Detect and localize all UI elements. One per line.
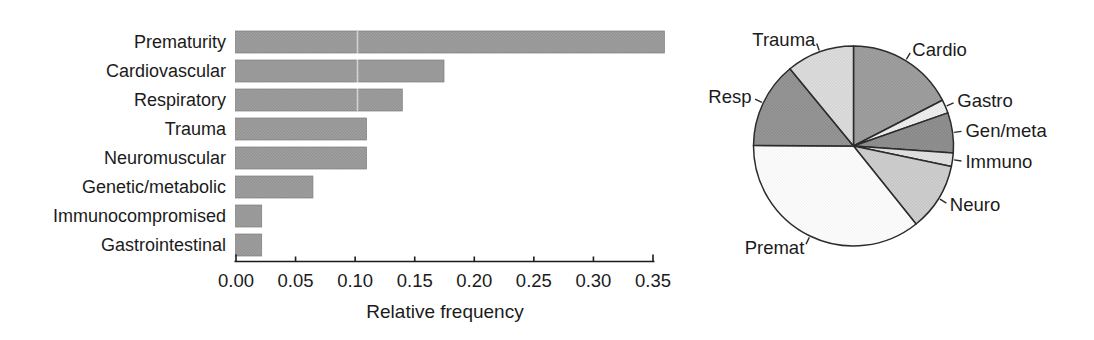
bar-label-genetic-metabolic: Genetic/metabolic bbox=[82, 177, 226, 197]
x-tick-label: 0.30 bbox=[575, 270, 611, 291]
bar-label-immunocompromised: Immunocompromised bbox=[53, 206, 226, 226]
x-tick-label: 0.10 bbox=[337, 270, 373, 291]
x-axis: 0.000.050.100.150.200.250.300.35Relative… bbox=[218, 255, 671, 322]
bar-label-trauma: Trauma bbox=[165, 119, 227, 139]
x-tick-label: 0.25 bbox=[516, 270, 552, 291]
bar-cardiovascular bbox=[236, 60, 445, 82]
x-tick-label: 0.15 bbox=[397, 270, 433, 291]
pie-label-gastro: Gastro bbox=[957, 90, 1013, 111]
pie-label-trauma: Trauma bbox=[752, 29, 816, 50]
pie-leader-neuro bbox=[940, 199, 946, 203]
scanned-figure-picu-diagnoses: PrematurityCardiovascularRespiratoryTrau… bbox=[0, 0, 1094, 340]
bar-chart: PrematurityCardiovascularRespiratoryTrau… bbox=[53, 31, 671, 322]
x-axis-title: Relative frequency bbox=[366, 301, 524, 322]
bar-label-respiratory: Respiratory bbox=[134, 90, 226, 110]
bar-genetic-metabolic bbox=[236, 176, 313, 198]
pie-leader-premat bbox=[806, 237, 809, 244]
pie-chart: CardioGastroGen/metaImmunoNeuroPrematRes… bbox=[708, 29, 1047, 258]
bar-immunocompromised bbox=[236, 205, 262, 227]
pie-leader-immuno bbox=[954, 160, 961, 161]
pie-leader-trauma bbox=[817, 43, 820, 50]
pie-leader-gen-meta bbox=[954, 131, 961, 132]
pie-label-cardio: Cardio bbox=[912, 39, 967, 60]
x-tick-label: 0.20 bbox=[456, 270, 492, 291]
pie-leader-resp bbox=[755, 99, 762, 102]
bar-respiratory bbox=[236, 89, 403, 111]
x-tick-label: 0.05 bbox=[278, 270, 314, 291]
pie-leader-cardio bbox=[906, 53, 910, 59]
pie-leader-gastro bbox=[947, 103, 954, 106]
bar-trauma bbox=[236, 118, 367, 140]
pie-label-neuro: Neuro bbox=[950, 194, 1000, 215]
x-tick-label: 0.35 bbox=[635, 270, 671, 291]
pie-label-premat: Premat bbox=[745, 237, 805, 258]
bar-label-cardiovascular: Cardiovascular bbox=[106, 61, 226, 81]
bar-gastrointestinal bbox=[236, 234, 262, 256]
bar-label-neuromuscular: Neuromuscular bbox=[104, 148, 226, 168]
bar-prematurity bbox=[236, 31, 665, 53]
bar-label-gastrointestinal: Gastrointestinal bbox=[101, 235, 226, 255]
pie-label-immuno: Immuno bbox=[965, 151, 1032, 172]
x-tick-label: 0.00 bbox=[218, 270, 254, 291]
charts-canvas: PrematurityCardiovascularRespiratoryTrau… bbox=[0, 0, 1094, 340]
pie-label-gen-meta: Gen/meta bbox=[965, 120, 1047, 141]
bar-neuromuscular bbox=[236, 147, 367, 169]
pie-label-resp: Resp bbox=[708, 86, 751, 107]
bar-label-prematurity: Prematurity bbox=[134, 32, 226, 52]
